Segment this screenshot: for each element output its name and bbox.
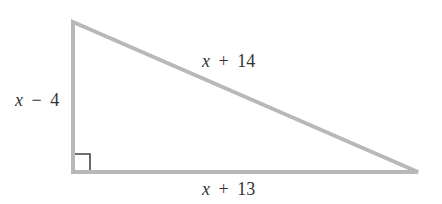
horizontal-leg-label: x + 13 xyxy=(201,179,255,199)
triangle-shape xyxy=(73,22,418,172)
vertical-leg-operator: − xyxy=(32,90,42,110)
vertical-leg-label: x − 4 xyxy=(14,90,59,110)
horizontal-leg-variable: x xyxy=(201,179,210,199)
hypotenuse-constant: 14 xyxy=(237,51,255,71)
hypotenuse-variable: x xyxy=(201,51,210,71)
hypotenuse-label: x + 14 xyxy=(201,51,255,71)
vertical-leg-constant: 4 xyxy=(50,90,59,110)
horizontal-leg-operator: + xyxy=(219,179,229,199)
right-triangle-diagram: x − 4 x + 14 x + 13 xyxy=(0,0,442,204)
vertical-leg-variable: x xyxy=(14,90,23,110)
right-angle-marker-icon xyxy=(75,154,90,170)
horizontal-leg-constant: 13 xyxy=(237,179,255,199)
hypotenuse-operator: + xyxy=(219,51,229,71)
